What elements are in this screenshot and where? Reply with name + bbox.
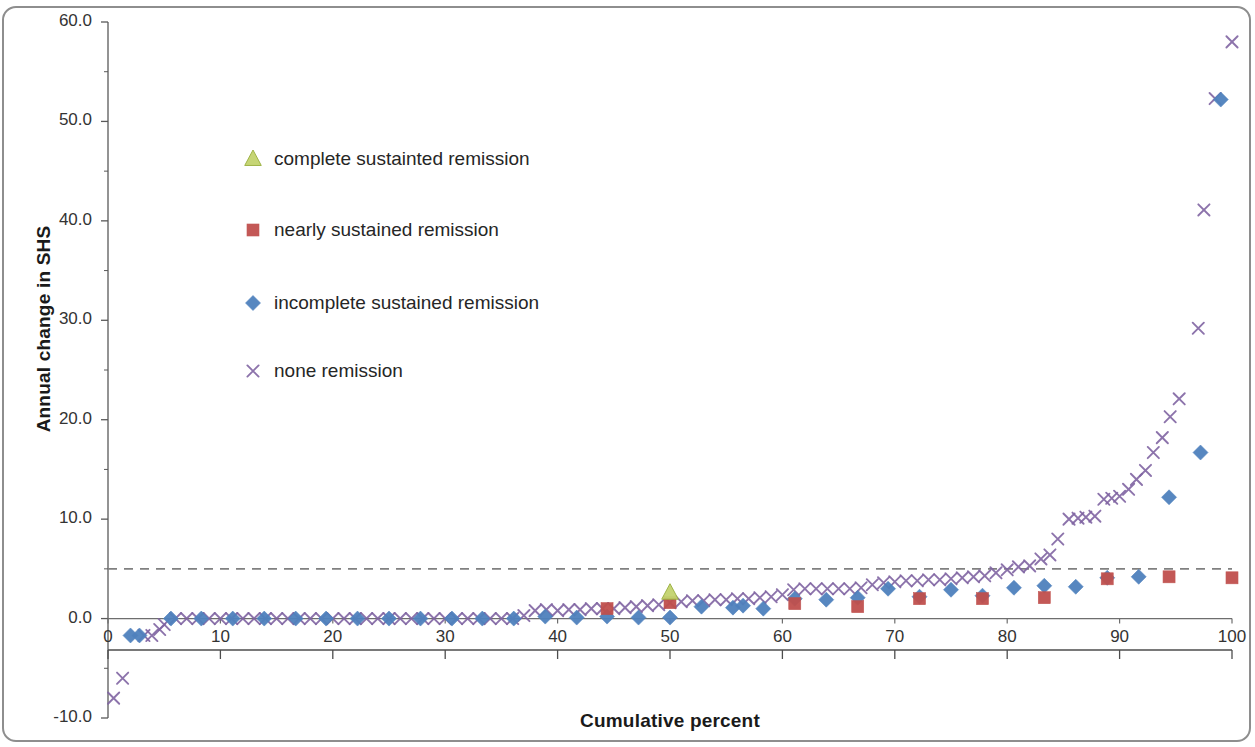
data-point [247,365,258,376]
data-point [475,611,490,626]
data-point [976,593,988,605]
data-point [1174,393,1185,404]
data-point [413,611,428,626]
data-point [538,609,553,624]
data-point [108,693,119,704]
data-point [1106,493,1117,504]
data-point [444,611,459,626]
data-point [789,598,801,610]
data-point [912,575,923,586]
scatter-plot-canvas [0,0,1255,747]
legend-label: complete sustainted remission [274,148,530,170]
data-point [811,583,822,594]
data-point [247,224,259,236]
data-point [694,599,709,614]
data-point [756,601,771,616]
data-point [844,583,855,594]
data-point [934,574,945,585]
data-point [1114,491,1125,502]
legend-item-triangle[interactable]: complete sustainted remission [244,148,530,170]
data-point [1024,560,1035,571]
data-point [530,605,541,616]
data-point [1193,445,1208,460]
data-point [586,603,597,614]
x-tick-label: 0 [78,627,138,647]
data-point [245,150,262,165]
x-axis-title: Cumulative percent [108,710,1232,732]
data-point [246,296,261,311]
legend-label: incomplete sustained remission [274,292,539,314]
data-point [822,583,833,594]
data-point [1226,36,1237,47]
data-point [709,594,720,605]
data-point [777,589,788,600]
series-complete-sustainted-remission [662,584,679,599]
data-point [1089,511,1100,522]
data-point [833,583,844,594]
data-point [1226,572,1238,584]
y-tick-label: 30.0 [22,309,92,329]
legend-item-square[interactable]: nearly sustained remission [244,219,499,241]
data-point [619,602,630,613]
data-point [288,611,303,626]
y-tick-label: 10.0 [22,508,92,528]
legend-label: nearly sustained remission [274,219,499,241]
y-tick-label: 60.0 [22,11,92,31]
data-point [1013,561,1024,572]
data-point [766,591,777,602]
data-point [979,570,990,581]
x-tick-label: 20 [303,627,363,647]
data-point [1038,592,1050,604]
legend-marker-diamond-icon [244,294,262,312]
data-point [1037,578,1052,593]
data-point [1165,411,1176,422]
data-point [552,605,563,616]
x-tick-label: 80 [977,627,1037,647]
data-point [799,583,810,594]
x-tick-label: 100 [1202,627,1255,647]
data-point [631,601,642,612]
x-axis-scale-bar [108,650,1232,659]
y-tick-label: 0.0 [22,608,92,628]
data-point [1002,564,1013,575]
data-point [957,572,968,583]
data-point [146,630,157,641]
data-point [1140,465,1151,476]
data-point [563,604,574,615]
data-point [1163,571,1175,583]
data-point [117,673,128,684]
data-point [194,611,209,626]
data-point [653,599,664,610]
x-tick-label: 40 [528,627,588,647]
y-tick-label: 20.0 [22,409,92,429]
data-point [900,575,911,586]
legend-item-x[interactable]: none remission [244,360,403,382]
data-point [642,600,653,611]
legend-label: none remission [274,360,403,382]
data-point [601,603,613,615]
data-point [1131,569,1146,584]
data-point [1101,573,1113,585]
data-point [852,601,864,613]
y-tick-label: 40.0 [22,210,92,230]
x-tick-label: 10 [190,627,250,647]
y-tick-label: -10.0 [22,707,92,727]
data-point [1198,204,1209,215]
data-point [1068,579,1083,594]
data-point [350,611,365,626]
legend-marker-triangle-icon [244,150,262,168]
data-point [1006,580,1021,595]
data-point [631,610,646,625]
x-tick-label: 70 [865,627,925,647]
data-point [968,571,979,582]
data-point [914,593,926,605]
legend-item-diamond[interactable]: incomplete sustained remission [244,292,539,314]
data-point [1052,533,1063,544]
x-tick-label: 30 [415,627,475,647]
y-axis [101,22,108,718]
x-tick-label: 90 [1090,627,1150,647]
data-point [1157,432,1168,443]
data-point [1162,490,1177,505]
legend-marker-x-icon [244,362,262,380]
y-tick-label: 50.0 [22,110,92,130]
